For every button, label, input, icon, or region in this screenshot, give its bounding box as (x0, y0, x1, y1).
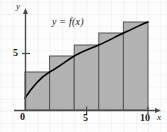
origin-label: 0 (20, 112, 25, 122)
x-tick-label-5: 5 (83, 113, 88, 123)
bar-1 (25, 72, 50, 110)
bar-5 (123, 22, 148, 110)
y-axis-label: y (16, 2, 20, 11)
y-tick-label-5: 5 (13, 48, 18, 58)
riemann-sum-figure: y x 5 0 5 10 y = f(x) (0, 0, 167, 132)
x-tick-label-10: 10 (140, 113, 150, 123)
x-axis-label: x (157, 113, 161, 122)
function-curve-label: y = f(x) (52, 17, 84, 27)
bar-4 (99, 33, 124, 110)
